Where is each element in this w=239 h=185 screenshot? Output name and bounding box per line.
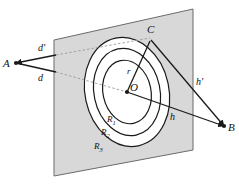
label-point-a: A [2, 57, 10, 69]
ray-a-to-o [16, 63, 56, 72]
label-segment-d-prime: d' [38, 42, 46, 53]
label-segment-h: h [170, 111, 175, 122]
point-b-marker [222, 124, 226, 128]
label-point-b: B [228, 121, 235, 133]
label-point-c: C [147, 23, 155, 35]
point-a-marker [14, 61, 18, 65]
label-radius-r: r [127, 66, 131, 76]
label-point-o: O [130, 81, 138, 93]
ray-a-to-c [16, 55, 56, 63]
label-segment-h-prime: h' [196, 76, 204, 87]
diagram-canvas: A B C O d' d h' h r R1 R2 R3 [0, 0, 239, 185]
label-region-r1-subscript: 1 [113, 119, 116, 126]
geometry-diagram: A B C O d' d h' h r R1 R2 R3 [0, 0, 239, 185]
label-segment-d: d [38, 72, 44, 83]
point-o-marker [125, 90, 129, 94]
